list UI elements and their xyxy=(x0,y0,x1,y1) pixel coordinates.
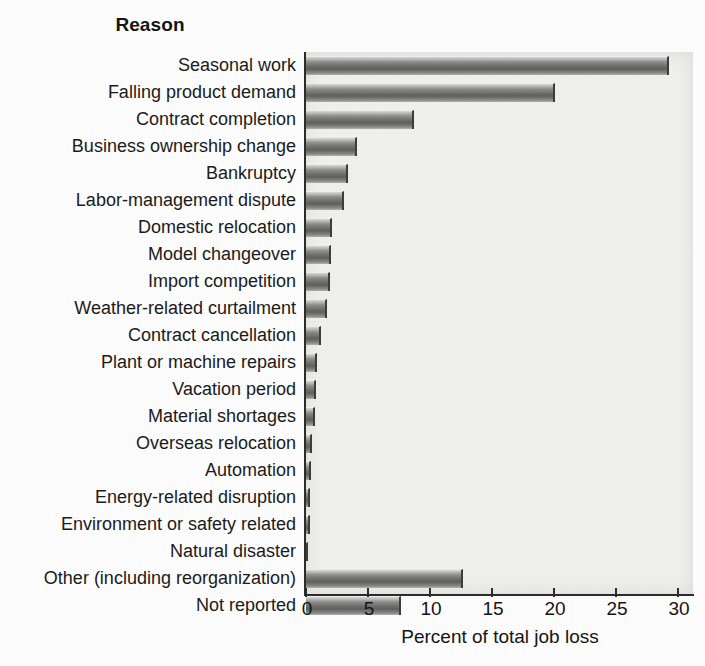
bar-track xyxy=(306,542,308,561)
bar-chart: Reason Seasonal workFalling product dema… xyxy=(0,0,705,666)
bar-row: Bankruptcy xyxy=(0,160,705,187)
bar-category-label: Business ownership change xyxy=(0,133,296,160)
bar-row: Contract cancellation xyxy=(0,322,705,349)
bar-category-label: Falling product demand xyxy=(0,79,296,106)
bar-track xyxy=(306,218,332,237)
x-tick-label: 20 xyxy=(528,598,582,620)
bar-track xyxy=(306,434,312,453)
bar xyxy=(306,191,344,210)
bar xyxy=(306,434,312,453)
bar-row: Contract completion xyxy=(0,106,705,133)
x-axis-title: Percent of total job loss xyxy=(305,626,695,648)
bar-row: Other (including reorganization) xyxy=(0,565,705,592)
x-axis-line xyxy=(304,594,694,596)
bar-category-label: Weather-related curtailment xyxy=(0,295,296,322)
bar-track xyxy=(306,110,414,129)
bar-track xyxy=(306,299,327,318)
bar xyxy=(306,353,317,372)
bar-row: Seasonal work xyxy=(0,52,705,79)
bar xyxy=(306,218,332,237)
bar-category-label: Energy-related disruption xyxy=(0,484,296,511)
bar-category-label: Overseas relocation xyxy=(0,430,296,457)
bar-track xyxy=(306,515,310,534)
bar-row: Domestic relocation xyxy=(0,214,705,241)
bar-row: Model changeover xyxy=(0,241,705,268)
bar-category-label: Labor-management dispute xyxy=(0,187,296,214)
bar-track xyxy=(306,272,330,291)
x-tick-label: 15 xyxy=(466,598,520,620)
bar-track xyxy=(306,191,344,210)
bar-category-label: Bankruptcy xyxy=(0,160,296,187)
bar-row: Falling product demand xyxy=(0,79,705,106)
x-tick-mark xyxy=(305,588,307,597)
bar-track xyxy=(306,56,669,75)
bar xyxy=(306,110,414,129)
x-tick-label: 30 xyxy=(652,598,705,620)
bar-row: Import competition xyxy=(0,268,705,295)
x-tick-mark xyxy=(429,588,431,597)
bar xyxy=(306,542,308,561)
bar-track xyxy=(306,569,463,588)
x-tick-mark xyxy=(677,588,679,597)
x-tick-label: 25 xyxy=(590,598,644,620)
bar-category-label: Model changeover xyxy=(0,241,296,268)
bar-category-label: Vacation period xyxy=(0,376,296,403)
bar-category-label: Material shortages xyxy=(0,403,296,430)
bar xyxy=(306,83,555,102)
bar xyxy=(306,488,310,507)
bar-category-label: Seasonal work xyxy=(0,52,296,79)
x-tick-label: 0 xyxy=(280,598,334,620)
bar xyxy=(306,164,348,183)
bar xyxy=(306,380,316,399)
bar xyxy=(306,299,327,318)
bar-track xyxy=(306,353,317,372)
x-tick-mark xyxy=(553,588,555,597)
bar-track xyxy=(306,83,555,102)
bar-track xyxy=(306,164,348,183)
bar-track xyxy=(306,380,316,399)
bar xyxy=(306,56,669,75)
bar xyxy=(306,569,463,588)
bar-row: Business ownership change xyxy=(0,133,705,160)
bar-category-label: Automation xyxy=(0,457,296,484)
bar-category-label: Import competition xyxy=(0,268,296,295)
bar xyxy=(306,515,310,534)
bar-row: Environment or safety related xyxy=(0,511,705,538)
x-tick-mark xyxy=(491,588,493,597)
x-tick-label: 5 xyxy=(342,598,396,620)
x-tick-label: 10 xyxy=(404,598,458,620)
bar-category-label: Natural disaster xyxy=(0,538,296,565)
bar-row: Plant or machine repairs xyxy=(0,349,705,376)
bar-row: Automation xyxy=(0,457,705,484)
bar-track xyxy=(306,461,311,480)
bar-category-label: Contract cancellation xyxy=(0,322,296,349)
bar-track xyxy=(306,488,310,507)
bar xyxy=(306,137,357,156)
y-axis-title: Reason xyxy=(0,14,300,36)
bar-row: Vacation period xyxy=(0,376,705,403)
bar-category-label: Other (including reorganization) xyxy=(0,565,296,592)
bar-row: Overseas relocation xyxy=(0,430,705,457)
bar-category-label: Domestic relocation xyxy=(0,214,296,241)
bar-track xyxy=(306,326,321,345)
bar xyxy=(306,245,331,264)
bar xyxy=(306,326,321,345)
bar-row: Natural disaster xyxy=(0,538,705,565)
bar-category-label: Plant or machine repairs xyxy=(0,349,296,376)
bar-category-label: Not reported xyxy=(0,592,296,619)
bar-row: Weather-related curtailment xyxy=(0,295,705,322)
bar xyxy=(306,407,315,426)
bar-row: Energy-related disruption xyxy=(0,484,705,511)
bar-category-label: Environment or safety related xyxy=(0,511,296,538)
y-axis-line xyxy=(304,52,306,595)
bar xyxy=(306,272,330,291)
bar-row: Labor-management dispute xyxy=(0,187,705,214)
bar-track xyxy=(306,137,357,156)
bar xyxy=(306,461,311,480)
bar-category-label: Contract completion xyxy=(0,106,296,133)
bar-track xyxy=(306,407,315,426)
bar-row: Material shortages xyxy=(0,403,705,430)
x-tick-mark xyxy=(367,588,369,597)
x-tick-mark xyxy=(615,588,617,597)
bar-track xyxy=(306,245,331,264)
